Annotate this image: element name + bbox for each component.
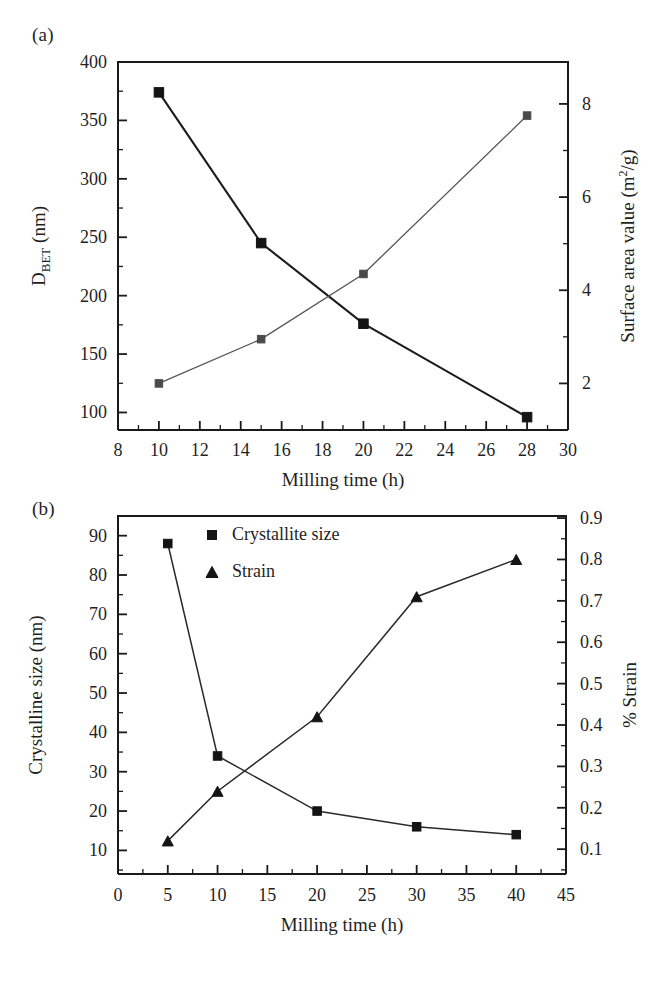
panel-b-crystallite-data-point [313, 807, 322, 816]
panel-b-y-right-tick-label: 0.6 [580, 632, 603, 652]
panel-b-axis-frame [118, 516, 566, 874]
panel-b-y-left-axis-title: Crystalline size (nm) [25, 615, 47, 774]
panel-a-x-tick-label: 28 [518, 440, 536, 460]
panel-a-y-left-tick-label: 100 [80, 402, 107, 422]
panel-b-strain-data-point [511, 554, 522, 564]
panel-a-x-tick-label: 8 [114, 440, 123, 460]
panel-b-y-right-tick-label: 0.4 [580, 715, 603, 735]
legend-label: Crystallite size [232, 524, 339, 544]
panel-a-x-tick-label: 24 [436, 440, 454, 460]
panel-a-y-right-tick-label: 2 [582, 373, 591, 393]
panel-a-surface-data-point [360, 270, 368, 278]
panel-b-x-tick-label: 5 [163, 885, 172, 905]
panel-b-y-right-tick-label: 0.3 [580, 756, 603, 776]
panel-b-y-left-tick-label: 10 [89, 840, 107, 860]
panel-a-x-tick-label: 10 [150, 440, 168, 460]
panel-b-legend: Crystallite sizeStrain [206, 524, 339, 581]
panel-a-dbet-data-point [256, 238, 266, 248]
panel-b-y-left-tick-label: 20 [89, 801, 107, 821]
panel-b-strain-data-point [411, 592, 422, 602]
panel-b-y-left-tick-label: 50 [89, 683, 107, 703]
panel-a-dbet-data-point [154, 88, 164, 98]
panel-a-y-left-axis-title: DBET (nm) [28, 206, 53, 286]
panel-a-y-left-tick-label: 400 [80, 52, 107, 72]
panel-b-crystallite-data-point [512, 830, 521, 839]
panel-a-x-tick-label: 26 [477, 440, 495, 460]
panel-a-y-right-tick-label: 6 [582, 187, 591, 207]
panel-a-x-tick-label: 30 [559, 440, 577, 460]
panel-a-y-right-axis-title: Surface area value (m2/g) [616, 149, 639, 342]
panel-b-y-left-tick-label: 90 [89, 526, 107, 546]
panel-a-x-axis-title: Milling time (h) [282, 469, 404, 491]
panel-b-x-tick-label: 40 [507, 885, 525, 905]
panel-a-y-left-tick-label: 150 [80, 344, 107, 364]
panel-a-x-tick-label: 20 [354, 440, 372, 460]
panel-a-dbet-data-point [359, 319, 369, 329]
panel-b-y-right-tick-label: 0.7 [580, 591, 603, 611]
panel-a-y-right-tick-label: 8 [582, 94, 591, 114]
panel-b-y-right-tick-label: 0.9 [580, 508, 603, 528]
panel-b-y-right-axis-title: % Strain [619, 662, 640, 728]
panel-a-dbet-data-point [522, 412, 532, 422]
panel-b-x-tick-label: 45 [557, 885, 575, 905]
panel-b-y-right-tick-label: 0.2 [580, 798, 603, 818]
panel-b-plot: 051015202530354045Milling time (h)102030… [0, 496, 669, 992]
panel-b-x-tick-label: 25 [358, 885, 376, 905]
panel-b-series-strain-line [168, 559, 516, 840]
panel-a-axis-frame [118, 62, 568, 430]
panel-b-x-tick-label: 35 [457, 885, 475, 905]
panel-a-surface-data-point [257, 335, 265, 343]
panel-a-y-right-tick-label: 4 [582, 280, 591, 300]
panel-a-y-left-tick-label: 300 [80, 169, 107, 189]
panel-b-x-axis-title: Milling time (h) [281, 914, 403, 936]
legend-marker-square [208, 531, 217, 540]
panel-a-y-left-tick-label: 250 [80, 227, 107, 247]
panel-a-plot: 81012141618202224262830Milling time (h)1… [0, 0, 669, 496]
panel-a-x-tick-label: 22 [395, 440, 413, 460]
panel-b-x-tick-label: 30 [408, 885, 426, 905]
panel-a-series-dbet-line [159, 92, 527, 417]
panel-a-surface-data-point [523, 112, 531, 120]
figure-container: (a) 81012141618202224262830Milling time … [0, 0, 669, 992]
chart-panel-b: (b) 051015202530354045Milling time (h)10… [0, 496, 669, 992]
panel-b-x-tick-label: 20 [308, 885, 326, 905]
panel-b-x-tick-label: 10 [209, 885, 227, 905]
panel-b-y-right-tick-label: 0.1 [580, 839, 603, 859]
chart-panel-a: (a) 81012141618202224262830Milling time … [0, 0, 669, 496]
panel-b-x-tick-label: 15 [258, 885, 276, 905]
legend-marker-triangle [206, 566, 218, 577]
panel-b-y-left-tick-label: 30 [89, 762, 107, 782]
panel-a-surface-data-point [155, 380, 163, 388]
panel-b-crystallite-data-point [412, 823, 421, 832]
panel-a-x-tick-label: 14 [232, 440, 250, 460]
panel-a-x-tick-label: 16 [273, 440, 291, 460]
panel-b-y-left-tick-label: 60 [89, 644, 107, 664]
panel-b-y-left-tick-label: 80 [89, 565, 107, 585]
panel-a-y-left-tick-label: 200 [80, 286, 107, 306]
panel-b-crystallite-data-point [164, 539, 173, 548]
legend-label: Strain [232, 561, 275, 581]
panel-a-y-left-tick-label: 350 [80, 110, 107, 130]
panel-a-x-tick-label: 18 [314, 440, 332, 460]
panel-b-crystallite-data-point [213, 752, 222, 761]
panel-b-y-right-tick-label: 0.5 [580, 674, 603, 694]
panel-b-y-left-tick-label: 70 [89, 604, 107, 624]
panel-a-x-tick-label: 12 [191, 440, 209, 460]
panel-b-x-tick-label: 0 [114, 885, 123, 905]
panel-a-series-surface-line [159, 116, 527, 384]
panel-b-y-left-tick-label: 40 [89, 722, 107, 742]
panel-b-y-right-tick-label: 0.8 [580, 549, 603, 569]
